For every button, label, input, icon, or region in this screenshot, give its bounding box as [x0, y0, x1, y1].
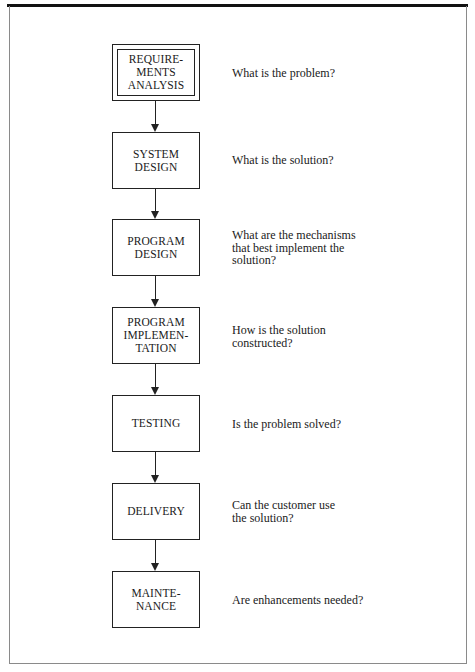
- stage-box-requirements-analysis: REQUIRE- MENTS ANALYSIS: [112, 44, 200, 101]
- stage-box-program-implementation: PROGRAM IMPLEMEN- TATION: [112, 307, 200, 364]
- stage-question: Can the customer use the solution?: [232, 499, 335, 524]
- stage-question: Are enhancements needed?: [232, 594, 363, 607]
- stage-label: PROGRAM IMPLEMEN- TATION: [124, 316, 189, 355]
- stage-question: How is the solution constructed?: [232, 324, 326, 349]
- stage-box-maintenance: MAINTE- NANCE: [112, 571, 200, 628]
- stage-box-delivery: DELIVERY: [112, 483, 200, 540]
- stage-label: REQUIRE- MENTS ANALYSIS: [128, 53, 185, 92]
- stage-question: Is the problem solved?: [232, 418, 341, 431]
- stage-label: TESTING: [132, 417, 181, 430]
- stage-label: MAINTE- NANCE: [131, 587, 180, 613]
- stage-label: SYSTEM DESIGN: [133, 148, 179, 174]
- stage-label: DELIVERY: [127, 505, 185, 518]
- stage-question: What is the solution?: [232, 154, 334, 167]
- stage-box-program-design: PROGRAM DESIGN: [112, 219, 200, 276]
- stage-box-testing: TESTING: [112, 395, 200, 452]
- stage-question: What are the mechanisms that best implem…: [232, 229, 356, 267]
- stage-question: What is the problem?: [232, 67, 335, 80]
- stage-label: PROGRAM DESIGN: [127, 235, 185, 261]
- stage-box-inner-border: REQUIRE- MENTS ANALYSIS: [117, 49, 195, 96]
- stage-box-system-design: SYSTEM DESIGN: [112, 132, 200, 189]
